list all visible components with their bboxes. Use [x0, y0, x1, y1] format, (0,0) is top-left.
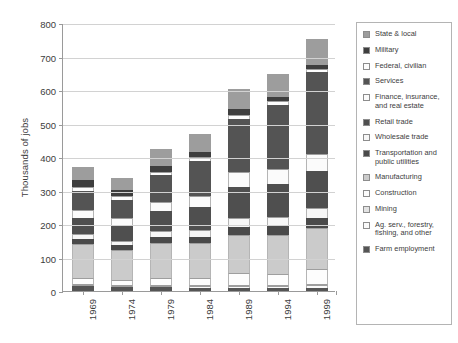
bar-segment: [267, 169, 289, 184]
bar-segment: [189, 243, 211, 277]
y-axis-tick-label: 700: [40, 52, 56, 63]
x-axis-tick-label: 1994: [282, 299, 293, 320]
legend-item-label: Farm employment: [375, 245, 435, 254]
bar-segment: [150, 278, 172, 285]
bar-segment: [267, 74, 289, 97]
bar-1989[interactable]: [228, 89, 250, 291]
x-axis-tick-mark: [200, 291, 201, 295]
legend-item-label: Mining: [375, 205, 397, 214]
x-axis-tick-mark: [317, 291, 318, 295]
legend-swatch-icon: [363, 206, 370, 213]
legend-item[interactable]: Transportation and public utilities: [363, 149, 446, 166]
bar-segment: [228, 119, 250, 173]
bar-segment: [189, 207, 211, 230]
y-axis-tick-mark: [59, 91, 63, 92]
y-axis-tick-label: 200: [40, 220, 56, 231]
legend-swatch-icon: [363, 63, 370, 70]
plot-area: 0100200300400500600700800196919741979198…: [62, 24, 335, 292]
y-axis-tick-label: 600: [40, 86, 56, 97]
bar-segment: [72, 167, 94, 180]
legend-swatch-icon: [363, 134, 370, 141]
bar-segment: [228, 273, 250, 284]
bar-segment: [72, 244, 94, 278]
chart-legend: State & localMilitaryFederal, civilianSe…: [356, 22, 452, 325]
bar-segment: [267, 274, 289, 285]
bar-segment: [150, 202, 172, 211]
y-axis-tick-label: 300: [40, 186, 56, 197]
gridline: [63, 91, 335, 92]
bar-segment: [111, 218, 133, 225]
legend-item[interactable]: Wholesale trade: [363, 133, 446, 142]
legend-item-label: Manufacturing: [375, 173, 422, 182]
y-axis-tick-label: 500: [40, 119, 56, 130]
bar-segment: [306, 228, 328, 269]
x-axis-tick-label: 1969: [87, 299, 98, 320]
bar-segment: [111, 225, 133, 241]
x-axis-tick-mark: [83, 291, 84, 295]
bar-1969[interactable]: [72, 167, 94, 291]
y-axis-tick-mark: [59, 292, 63, 293]
x-axis-tick-label: 1999: [321, 299, 332, 320]
legend-item[interactable]: State & local: [363, 30, 446, 39]
bar-1974[interactable]: [111, 178, 133, 291]
legend-item-label: Military: [375, 46, 398, 55]
y-axis-tick-label: 100: [40, 253, 56, 264]
bar-segment: [306, 171, 328, 208]
bar-segment: [228, 235, 250, 274]
x-axis-tick-mark: [336, 291, 337, 295]
x-axis-tick-label: 1989: [243, 299, 254, 320]
bar-segment: [189, 196, 211, 207]
bar-segment: [150, 243, 172, 278]
bar-segment: [72, 210, 94, 217]
legend-item[interactable]: Farm employment: [363, 245, 446, 254]
legend-item[interactable]: Ag. serv., forestry, fishing, and other: [363, 221, 446, 238]
gridline: [63, 158, 335, 159]
legend-swatch-icon: [363, 174, 370, 181]
y-axis-title: Thousands of jobs: [19, 88, 30, 228]
legend-item-label: State & local: [375, 30, 417, 39]
bar-segment: [189, 278, 211, 285]
legend-item-label: Construction: [375, 189, 417, 198]
x-axis-tick-mark: [239, 291, 240, 295]
legend-item[interactable]: Finance, insurance, and real estate: [363, 93, 446, 110]
bar-segment: [150, 175, 172, 201]
bar-segment: [267, 184, 289, 217]
stacked-bar-chart: Thousands of jobs 0100200300400500600700…: [0, 0, 458, 343]
bar-segment: [72, 180, 94, 187]
x-axis-tick-label: 1984: [204, 299, 215, 320]
y-axis-tick-mark: [59, 225, 63, 226]
bar-segment: [228, 172, 250, 187]
bar-segment: [306, 72, 328, 154]
y-axis-tick-label: 400: [40, 153, 56, 164]
legend-item[interactable]: Mining: [363, 205, 446, 214]
legend-item[interactable]: Military: [363, 46, 446, 55]
bar-1979[interactable]: [150, 149, 172, 291]
legend-item[interactable]: Manufacturing: [363, 173, 446, 182]
bar-segment: [306, 154, 328, 171]
bar-segment: [267, 226, 289, 235]
bar-segment: [111, 178, 133, 190]
bar-1999[interactable]: [306, 39, 328, 291]
bar-segment: [267, 235, 289, 274]
bar-segment: [111, 250, 133, 280]
legend-item[interactable]: Services: [363, 77, 446, 86]
legend-swatch-icon: [363, 222, 370, 229]
legend-item[interactable]: Federal, civilian: [363, 62, 446, 71]
legend-item[interactable]: Construction: [363, 189, 446, 198]
gridline: [63, 259, 335, 260]
bar-segment: [189, 230, 211, 237]
x-axis-tick-mark: [122, 291, 123, 295]
x-axis-tick-mark: [161, 291, 162, 295]
legend-swatch-icon: [363, 150, 370, 157]
gridline: [63, 225, 335, 226]
legend-item-label: Transportation and public utilities: [375, 149, 446, 166]
y-axis-tick-mark: [59, 58, 63, 59]
legend-item-label: Wholesale trade: [375, 133, 428, 142]
legend-item-label: Federal, civilian: [375, 62, 426, 71]
bar-segment: [189, 134, 211, 152]
bar-segment: [306, 208, 328, 218]
bar-segment: [306, 218, 328, 228]
legend-item[interactable]: Retail trade: [363, 118, 446, 127]
gridline: [63, 24, 335, 25]
bar-segment: [72, 191, 94, 210]
